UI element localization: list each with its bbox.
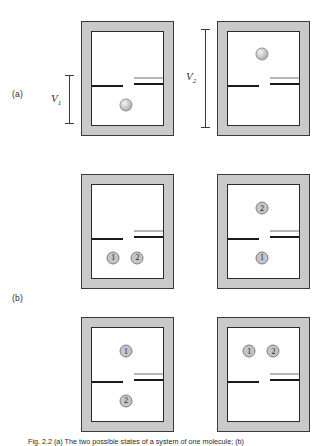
row-label-a: (a) [12,89,23,99]
partition-left-segment [228,381,259,383]
panel-c-left-interior: 1 2 [91,327,164,422]
molecule-sphere [120,99,133,112]
partition-right-segment [134,83,163,85]
panel-b-right-box: 2 1 [217,174,310,289]
dimension-label-v2-letter: V [186,70,193,82]
partition-left-segment [228,238,259,240]
valve-plate [270,77,299,79]
dimension-label-v2: V2 [186,70,196,85]
partition-right-segment [134,236,163,238]
valve-plate [134,230,163,232]
valve-plate [270,230,299,232]
panel-a-right-interior [227,31,300,126]
molecule-tag-1: 1 [120,345,133,358]
panel-c-left-box: 1 2 [81,317,174,432]
dimension-label-v1-letter: V [51,92,58,104]
panel-a-left-interior [91,31,164,126]
dimension-label-v2-subscript: 2 [193,77,197,85]
panel-c-right-box: 1 2 [217,317,310,432]
panel-b-right-interior: 2 1 [227,184,300,279]
panel-b-left-interior: 1 2 [91,184,164,279]
molecule-tag-1: 1 [256,251,269,264]
partition-left-segment [228,85,259,87]
molecule-tag-1: 1 [107,251,120,264]
figure-caption: Fig. 2.2 (a) The two possible states of … [28,437,320,446]
molecule-tag-2: 2 [267,345,280,358]
partition-left-segment [92,381,123,383]
partition-right-segment [270,236,299,238]
molecule-tag-2: 2 [256,202,269,215]
dimension-line-v1 [69,75,70,124]
partition-left-segment [92,238,123,240]
valve-plate [270,373,299,375]
molecule-tag-2: 2 [120,394,133,407]
panel-a-left-box [81,21,174,136]
molecule-sphere [256,48,269,61]
partition-right-segment [270,83,299,85]
partition-right-segment [270,379,299,381]
valve-plate [134,373,163,375]
partition-left-segment [92,85,123,87]
dimension-line-v2 [205,29,206,128]
valve-plate [134,77,163,79]
molecule-tag-1: 1 [243,345,256,358]
dimension-label-v1: V1 [51,92,61,107]
figure-container: (a) V1 V2 (b) 1 2 [0,0,330,446]
dimension-label-v1-subscript: 1 [58,99,62,107]
panel-a-right-box [217,21,310,136]
row-label-b: (b) [12,293,23,303]
molecule-tag-2: 2 [131,251,144,264]
panel-b-left-box: 1 2 [81,174,174,289]
partition-right-segment [134,379,163,381]
panel-c-right-interior: 1 2 [227,327,300,422]
